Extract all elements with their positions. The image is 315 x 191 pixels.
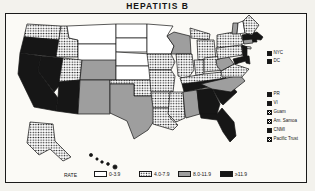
nyc-label: NYC	[274, 51, 284, 56]
dc-map-marker	[235, 62, 237, 64]
pr-label: PR	[274, 92, 280, 97]
rate-class-0-label: 0-3.9	[109, 171, 120, 177]
state-az	[56, 80, 80, 114]
am-samoa-swatch	[267, 119, 272, 124]
pacific-trust-label: Pacific Trust	[274, 137, 299, 142]
callout-cnmi: CNMI	[267, 128, 298, 133]
pr-swatch	[267, 92, 272, 97]
vi-label: VI	[274, 101, 278, 106]
cnmi-label: CNMI	[274, 128, 286, 133]
pacific-trust-swatch	[267, 137, 272, 142]
guam-label: Guam	[274, 110, 286, 115]
city-callout-legend: NYC DC	[267, 51, 283, 66]
guam-swatch	[267, 110, 272, 115]
callout-guam: Guam	[267, 110, 298, 115]
dc-label: DC	[274, 59, 281, 64]
state-ut	[59, 58, 82, 82]
state-mo	[149, 70, 175, 92]
rate-class-2-label: 8.0-11.9	[193, 171, 211, 177]
state-ks	[116, 66, 154, 80]
callout-dc: DC	[267, 59, 283, 64]
rate-class-1-label: 4.0-7.9	[154, 171, 170, 177]
state-ia	[147, 54, 175, 70]
rate-class-1-swatch	[139, 171, 152, 177]
state-nd	[116, 24, 147, 38]
page-title: HEPATITIS B	[0, 1, 315, 11]
state-ak	[27, 122, 71, 161]
am-samoa-label: Am. Samoa	[274, 119, 298, 124]
map-frame: NYC DC PR VI Guam Am. Samoa	[5, 13, 307, 183]
rate-class-0: 0-3.9	[94, 171, 120, 177]
state-mi-upper	[190, 28, 210, 40]
callout-nyc: NYC	[267, 51, 283, 56]
state-wy	[78, 44, 116, 62]
cnmi-swatch	[267, 128, 272, 133]
rate-class-0-swatch	[94, 171, 107, 177]
state-nj	[242, 45, 247, 58]
state-ms	[168, 92, 185, 122]
state-nm	[78, 80, 110, 114]
rate-legend-title: RATE	[64, 172, 77, 178]
rate-class-1: 4.0-7.9	[139, 171, 170, 177]
state-hi	[89, 153, 117, 169]
state-in	[194, 60, 204, 76]
rate-class-2-swatch	[178, 171, 191, 177]
callout-vi: VI	[267, 101, 298, 106]
callout-pacific-trust: Pacific Trust	[267, 137, 298, 142]
us-map	[6, 14, 305, 181]
callout-am-samoa: Am. Samoa	[267, 119, 298, 124]
rate-class-3-swatch	[220, 171, 233, 177]
nyc-swatch	[267, 51, 272, 56]
rate-class-2: 8.0-11.9	[178, 171, 211, 177]
state-sd	[116, 38, 147, 52]
state-co	[80, 60, 116, 80]
territory-legend: PR VI Guam Am. Samoa CNMI Pacific Trust	[267, 92, 298, 146]
callout-pr: PR	[267, 92, 298, 97]
figure-hepatitis-b-map: HEPATITIS B	[0, 0, 315, 191]
rate-legend: RATE 0-3.9 4.0-7.9 8.0-11.9 ≥11.9	[6, 171, 306, 183]
vi-swatch	[267, 101, 272, 106]
rate-class-3-label: ≥11.9	[235, 171, 247, 177]
rate-class-3: ≥11.9	[220, 171, 247, 177]
dc-swatch	[267, 59, 272, 64]
state-ne	[116, 52, 152, 66]
